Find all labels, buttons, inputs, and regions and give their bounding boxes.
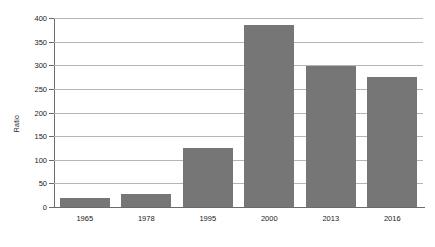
y-tick-label: 200 bbox=[3, 108, 47, 117]
plot-area bbox=[54, 18, 423, 207]
bar bbox=[183, 148, 233, 207]
x-tick-label: 1965 bbox=[60, 214, 110, 223]
x-tick-label: 2013 bbox=[306, 214, 356, 223]
bar bbox=[244, 25, 294, 207]
gridline bbox=[54, 42, 423, 43]
y-tick-label: 400 bbox=[3, 14, 47, 23]
y-tick-label: 50 bbox=[3, 179, 47, 188]
y-tick-label: 0 bbox=[3, 203, 47, 212]
gridline bbox=[54, 207, 423, 208]
x-tick-label: 1995 bbox=[183, 214, 233, 223]
y-tick-label: 250 bbox=[3, 84, 47, 93]
bar-chart: Ratio 050100150200250300350400 196519781… bbox=[0, 0, 435, 247]
bar bbox=[60, 198, 110, 207]
y-tick-label: 150 bbox=[3, 132, 47, 141]
x-tick-label: 2016 bbox=[367, 214, 417, 223]
y-tick-label: 350 bbox=[3, 37, 47, 46]
bar bbox=[367, 77, 417, 207]
y-axis-ticks: 050100150200250300350400 bbox=[0, 0, 47, 247]
x-tick-label: 2000 bbox=[244, 214, 294, 223]
gridline bbox=[54, 18, 423, 19]
y-tick-label: 100 bbox=[3, 155, 47, 164]
y-tick-label: 300 bbox=[3, 61, 47, 70]
bar bbox=[121, 194, 171, 207]
bar bbox=[306, 66, 356, 207]
x-tick-label: 1978 bbox=[121, 214, 171, 223]
gridline bbox=[54, 65, 423, 66]
